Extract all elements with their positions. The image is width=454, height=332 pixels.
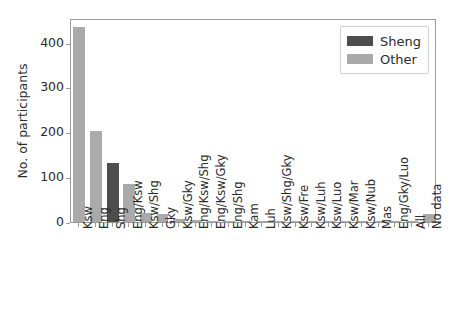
x-tick-mark (361, 223, 362, 227)
x-tick-label: Eng/Gky/Luo (399, 157, 411, 229)
bar-chart-figure: No. of participants 0100200300400 Sheng … (0, 0, 454, 332)
x-tick-mark (178, 223, 179, 227)
x-tick-mark (328, 223, 329, 227)
y-tick-mark (66, 178, 70, 179)
x-tick-mark (278, 223, 279, 227)
bar (73, 27, 85, 222)
plot-area: Sheng Other (70, 19, 436, 223)
x-tick-label: Ksw/Shg (149, 180, 161, 229)
x-tick-label: Ksw/Luh (316, 181, 328, 229)
legend-item-sheng: Sheng (347, 32, 421, 50)
x-tick-mark (394, 223, 395, 227)
x-tick-mark (228, 223, 229, 227)
x-tick-label: Ksw/Nub (366, 179, 378, 229)
x-tick-label: Eng/Ksw/Gky (216, 154, 228, 229)
y-tick-label: 300 (4, 81, 64, 94)
chart-legend: Sheng Other (340, 26, 429, 74)
y-tick-label: 100 (4, 171, 64, 184)
x-tick-mark (112, 223, 113, 227)
x-tick-label: Ksw/Shg/Gky (282, 154, 294, 229)
x-tick-label: Ksw/Mar (349, 180, 361, 229)
y-axis-label: No. of participants (15, 19, 31, 223)
x-tick-mark (428, 223, 429, 227)
x-tick-label: Luh (266, 208, 278, 229)
legend-label-other: Other (380, 53, 417, 66)
y-tick-label: 400 (4, 37, 64, 50)
x-tick-label: Ksw/Luo (332, 182, 344, 229)
x-tick-label: Ksw (83, 206, 95, 229)
x-tick-mark (261, 223, 262, 227)
x-tick-mark (162, 223, 163, 227)
x-tick-mark (295, 223, 296, 227)
x-tick-mark (195, 223, 196, 227)
x-tick-mark (345, 223, 346, 227)
x-tick-mark (311, 223, 312, 227)
x-tick-label: Ksw/Gky (183, 180, 195, 229)
x-tick-label: Kam (249, 203, 261, 229)
legend-label-sheng: Sheng (380, 35, 421, 48)
x-tick-mark (411, 223, 412, 227)
x-tick-label: Eng/Ksw (133, 180, 145, 229)
x-tick-mark (78, 223, 79, 227)
legend-item-other: Other (347, 50, 421, 68)
x-tick-mark (245, 223, 246, 227)
x-tick-mark (211, 223, 212, 227)
x-tick-label: Eng/Ksw/Shg (199, 155, 211, 229)
x-tick-label: No data (432, 184, 444, 229)
x-tick-mark (145, 223, 146, 227)
x-tick-mark (378, 223, 379, 227)
x-tick-label: All (416, 215, 428, 229)
x-tick-label: Ksw/Fre (299, 185, 311, 229)
x-tick-label: Shg (116, 207, 128, 229)
x-tick-mark (128, 223, 129, 227)
y-tick-mark (66, 133, 70, 134)
x-tick-mark (95, 223, 96, 227)
y-tick-label: 0 (4, 216, 64, 229)
x-tick-label: Gky (166, 207, 178, 229)
y-tick-mark (66, 88, 70, 89)
legend-swatch-sheng (347, 36, 373, 46)
x-tick-label: Mas (382, 206, 394, 229)
x-tick-label: Eng (99, 207, 111, 229)
y-tick-mark (66, 44, 70, 45)
y-tick-label: 200 (4, 126, 64, 139)
legend-swatch-other (347, 54, 373, 64)
y-tick-mark (66, 223, 70, 224)
x-tick-label: Eng/Shg (233, 181, 245, 229)
